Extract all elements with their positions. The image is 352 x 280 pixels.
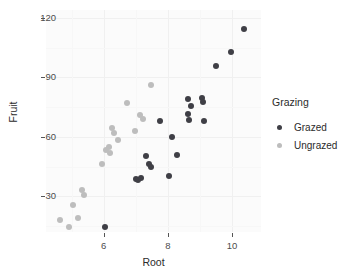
x-tick-label: 6	[92, 240, 116, 251]
gridline-horizontal-minor	[46, 226, 261, 227]
data-point-grazed	[185, 96, 191, 102]
data-point-grazed	[241, 26, 247, 32]
legend-dot-icon	[277, 143, 282, 148]
gridline-vertical-minor	[72, 10, 73, 232]
data-point-ungrazed	[107, 150, 113, 156]
y-axis-title: Fruit	[7, 82, 19, 142]
gridline-horizontal	[46, 77, 261, 78]
gridline-horizontal	[46, 137, 261, 138]
x-tick-mark	[104, 233, 105, 237]
data-point-ungrazed	[140, 116, 146, 122]
data-point-ungrazed	[132, 128, 138, 134]
data-point-grazed	[228, 49, 234, 55]
gridline-vertical	[168, 10, 169, 232]
y-tick-label: 30	[45, 191, 56, 201]
data-point-ungrazed	[148, 82, 154, 88]
data-point-ungrazed	[70, 202, 76, 208]
legend-item-ungrazed[interactable]: Ungrazed	[272, 136, 352, 154]
gridline-horizontal-minor	[46, 107, 261, 108]
data-point-grazed	[143, 153, 149, 159]
x-tick-mark	[232, 233, 233, 237]
data-point-ungrazed	[124, 100, 130, 106]
data-point-grazed	[201, 118, 207, 124]
data-point-grazed	[200, 99, 206, 105]
data-point-ungrazed	[106, 144, 112, 150]
gridline-vertical	[104, 10, 105, 232]
y-tick-label: 60	[45, 132, 56, 142]
y-tick-label: 90	[45, 72, 56, 82]
legend-key-icon	[272, 138, 286, 152]
data-point-ungrazed	[75, 215, 81, 221]
data-point-ungrazed	[111, 130, 117, 136]
x-axis-title: Root	[46, 256, 261, 268]
legend-item-label: Grazed	[294, 122, 327, 133]
data-point-ungrazed	[115, 137, 121, 143]
data-point-grazed	[102, 224, 108, 230]
gridline-horizontal	[46, 18, 261, 19]
data-point-ungrazed	[81, 192, 87, 198]
y-tick-mark	[41, 137, 45, 138]
legend-item-grazed[interactable]: Grazed	[272, 118, 352, 136]
data-point-grazed	[166, 173, 172, 179]
data-point-grazed	[188, 103, 194, 109]
legend-items: GrazedUngrazed	[272, 118, 352, 154]
gridline-vertical	[232, 10, 233, 232]
data-point-grazed	[157, 118, 163, 124]
data-point-ungrazed	[57, 217, 63, 223]
legend-key-icon	[272, 120, 286, 134]
y-tick-mark	[41, 196, 45, 197]
y-tick-mark	[41, 77, 45, 78]
plot-panel	[46, 10, 261, 232]
legend-dot-icon	[277, 125, 282, 130]
data-point-grazed	[138, 175, 144, 181]
data-point-grazed	[213, 63, 219, 69]
data-point-grazed	[148, 164, 154, 170]
data-point-ungrazed	[99, 161, 105, 167]
gridline-vertical-minor	[136, 10, 137, 232]
scatter-chart: 306090120 6810 Root Fruit Grazing Grazed…	[0, 0, 352, 280]
x-tick-label: 8	[156, 240, 180, 251]
legend: Grazing GrazedUngrazed	[272, 96, 352, 154]
legend-item-label: Ungrazed	[294, 140, 337, 151]
x-tick-label: 10	[220, 240, 244, 251]
data-point-ungrazed	[66, 224, 72, 230]
gridline-horizontal	[46, 196, 261, 197]
data-point-grazed	[169, 134, 175, 140]
y-tick-mark	[41, 18, 45, 19]
data-point-grazed	[174, 152, 180, 158]
data-point-grazed	[186, 117, 192, 123]
legend-title: Grazing	[272, 96, 352, 108]
x-tick-mark	[168, 233, 169, 237]
